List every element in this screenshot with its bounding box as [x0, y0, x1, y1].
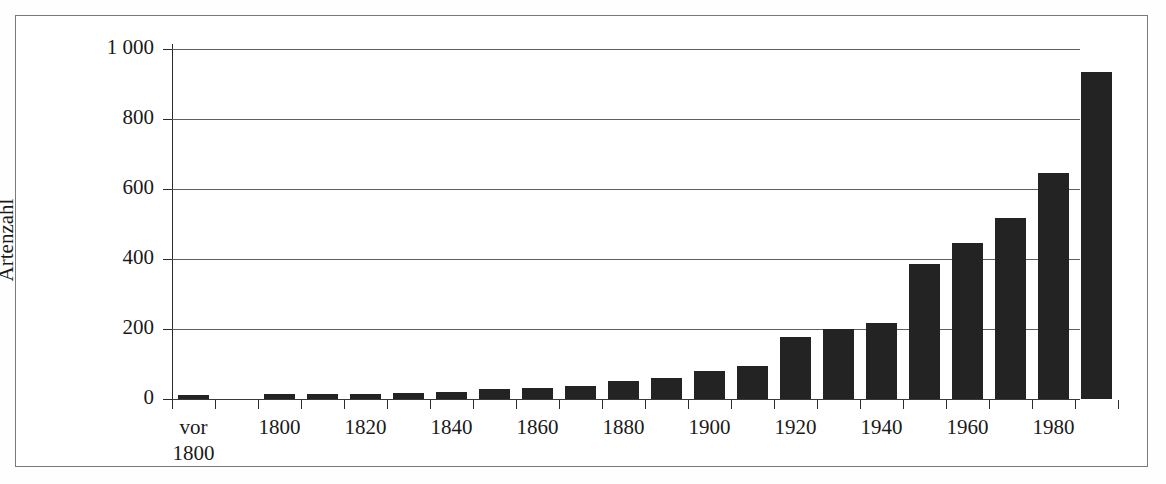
x-tick-label-1940: 1940	[837, 414, 927, 440]
bar-1820	[350, 394, 381, 399]
y-tick-label-0: 0	[60, 385, 154, 410]
y-tick-mark-200	[163, 329, 172, 330]
y-tick-mark-800	[163, 119, 172, 120]
bar-1850	[479, 389, 510, 399]
figure-container: Artenzahl 02004006008001 000 vor 1800180…	[0, 0, 1166, 484]
plot-area	[172, 49, 1080, 399]
gridline-400	[172, 259, 1080, 260]
x-tick-label-1920: 1920	[751, 414, 841, 440]
y-tick-mark-400	[163, 259, 172, 260]
bar-1870	[565, 386, 596, 399]
gridline-600	[172, 189, 1080, 190]
bar-1860	[522, 388, 553, 399]
x-tick-label-1960: 1960	[923, 414, 1013, 440]
gridline-800	[172, 119, 1080, 120]
bar-1920	[780, 337, 811, 399]
gridline-1000	[172, 49, 1080, 50]
x-tick-label-1880: 1880	[579, 414, 669, 440]
bar-1980	[1038, 173, 1069, 399]
bar-1990	[1081, 72, 1112, 399]
bar-1910	[737, 366, 768, 399]
y-axis-title: Artenzahl	[0, 150, 19, 330]
bar-1800	[264, 394, 295, 399]
y-tick-label-200: 200	[60, 315, 154, 340]
x-tick-label-1840: 1840	[407, 414, 497, 440]
x-tick-label-1860: 1860	[493, 414, 583, 440]
bar-1890	[651, 378, 682, 399]
x-tick-label-1820: 1820	[321, 414, 411, 440]
bar-1950	[909, 264, 940, 399]
bar-1930	[823, 329, 854, 399]
x-tick-label-1800: 1800	[235, 414, 325, 440]
gridline-200	[172, 329, 1080, 330]
x-tick-label-vor-1800: vor 1800	[149, 414, 239, 466]
y-tick-mark-1000	[163, 49, 172, 50]
bar-1940	[866, 323, 897, 399]
bar-1960	[952, 243, 983, 399]
y-tick-mark-600	[163, 189, 172, 190]
x-tick-label-1980: 1980	[1009, 414, 1099, 440]
y-tick-label-600: 600	[60, 175, 154, 200]
y-tick-mark-0	[163, 399, 172, 400]
y-tick-label-800: 800	[60, 105, 154, 130]
y-tick-label-400: 400	[60, 245, 154, 270]
bar-1970	[995, 218, 1026, 399]
bar-1900	[694, 371, 725, 399]
bar-vor-1800	[178, 395, 209, 399]
x-tick-label-1900: 1900	[665, 414, 755, 440]
y-tick-label-1000: 1 000	[60, 35, 154, 60]
bar-1840	[436, 392, 467, 399]
bar-1830	[393, 393, 424, 399]
bar-1810	[307, 394, 338, 399]
gridline-0	[172, 399, 1080, 400]
bar-1880	[608, 381, 639, 399]
